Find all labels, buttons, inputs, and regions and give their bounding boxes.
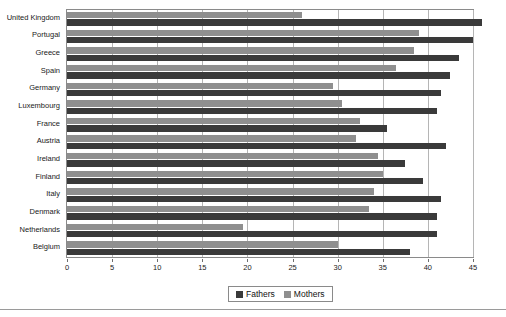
- bar-fathers-luxembourg: [67, 108, 437, 114]
- x-tick-label-25: 25: [288, 263, 296, 272]
- legend-label-mothers: Mothers: [294, 289, 325, 299]
- bar-mothers-portugal: [67, 30, 419, 36]
- bar-row: [67, 204, 473, 222]
- bar-fathers-greece: [67, 55, 459, 61]
- category-label: Germany: [29, 83, 60, 92]
- bar-fathers-denmark: [67, 213, 437, 219]
- category-label: Ireland: [37, 154, 60, 163]
- x-tick-label-40: 40: [424, 263, 432, 272]
- bar-fathers-netherlands: [67, 231, 437, 237]
- x-tick-mark-0: [67, 259, 68, 262]
- bar-row: [67, 133, 473, 151]
- category-axis: United KingdomPortugalGreeceSpainGermany…: [0, 9, 64, 258]
- category-label: Netherlands: [20, 225, 60, 234]
- bar-row: [67, 45, 473, 63]
- legend-swatch-mothers: [284, 291, 291, 298]
- bar-fathers-germany: [67, 90, 441, 96]
- bar-row: [67, 10, 473, 28]
- x-tick-label-15: 15: [198, 263, 206, 272]
- bar-mothers-united-kingdom: [67, 12, 302, 18]
- x-tick-mark-30: [338, 259, 339, 262]
- bar-row: [67, 169, 473, 187]
- value-axis: 051015202530354045: [0, 259, 506, 275]
- legend-item-mothers: Mothers: [284, 289, 325, 299]
- legend-swatch-fathers: [236, 291, 243, 298]
- bar-mothers-finland: [67, 171, 383, 177]
- x-tick-mark-40: [428, 259, 429, 262]
- bar-mothers-luxembourg: [67, 100, 342, 106]
- category-label: Spain: [41, 66, 60, 75]
- plot-area: [66, 9, 474, 258]
- x-tick-label-20: 20: [243, 263, 251, 272]
- bar-row: [67, 98, 473, 116]
- bar-mothers-belgium: [67, 241, 338, 247]
- bar-row: [67, 63, 473, 81]
- category-label: Greece: [35, 48, 60, 57]
- bar-row: [67, 81, 473, 99]
- x-tick-label-10: 10: [153, 263, 161, 272]
- legend: Fathers Mothers: [228, 286, 333, 302]
- x-tick-mark-45: [473, 259, 474, 262]
- x-tick-mark-5: [112, 259, 113, 262]
- category-label: Finland: [35, 172, 60, 181]
- legend-label-fathers: Fathers: [246, 289, 275, 299]
- bar-mothers-spain: [67, 65, 396, 71]
- x-tick-label-5: 5: [110, 263, 114, 272]
- category-label: Belgium: [33, 242, 60, 251]
- category-label: Italy: [46, 189, 60, 198]
- bar-mothers-greece: [67, 47, 414, 53]
- x-tick-mark-25: [293, 259, 294, 262]
- x-tick-label-35: 35: [379, 263, 387, 272]
- category-label: United Kingdom: [7, 13, 60, 22]
- bar-row: [67, 239, 473, 257]
- x-tick-label-30: 30: [333, 263, 341, 272]
- bar-mothers-italy: [67, 188, 374, 194]
- bar-chart: United KingdomPortugalGreeceSpainGermany…: [0, 0, 506, 317]
- bar-mothers-france: [67, 118, 360, 124]
- bar-mothers-austria: [67, 135, 356, 141]
- x-tick-mark-15: [202, 259, 203, 262]
- bar-fathers-belgium: [67, 249, 410, 255]
- bar-fathers-austria: [67, 143, 446, 149]
- x-tick-label-0: 0: [65, 263, 69, 272]
- x-tick-mark-10: [157, 259, 158, 262]
- bar-mothers-netherlands: [67, 224, 243, 230]
- bar-mothers-denmark: [67, 206, 369, 212]
- gridline-45: [473, 10, 474, 257]
- bar-fathers-portugal: [67, 37, 473, 43]
- bar-row: [67, 28, 473, 46]
- bar-row: [67, 116, 473, 134]
- category-label: Portugal: [32, 30, 60, 39]
- bar-row: [67, 222, 473, 240]
- bar-mothers-ireland: [67, 153, 378, 159]
- category-label: Austria: [37, 136, 60, 145]
- bar-fathers-italy: [67, 196, 441, 202]
- bar-mothers-germany: [67, 83, 333, 89]
- bar-rows: [67, 10, 473, 257]
- bar-fathers-finland: [67, 178, 423, 184]
- legend-item-fathers: Fathers: [236, 289, 275, 299]
- category-label: Denmark: [30, 207, 60, 216]
- bar-fathers-ireland: [67, 160, 405, 166]
- bar-fathers-france: [67, 125, 387, 131]
- x-tick-mark-20: [247, 259, 248, 262]
- x-tick-label-45: 45: [469, 263, 477, 272]
- bar-row: [67, 186, 473, 204]
- category-label: France: [37, 119, 60, 128]
- x-tick-mark-35: [383, 259, 384, 262]
- footer-divider: [0, 309, 506, 310]
- bar-row: [67, 151, 473, 169]
- category-label: Luxembourg: [18, 101, 60, 110]
- bar-fathers-spain: [67, 72, 450, 78]
- bar-fathers-united-kingdom: [67, 19, 482, 25]
